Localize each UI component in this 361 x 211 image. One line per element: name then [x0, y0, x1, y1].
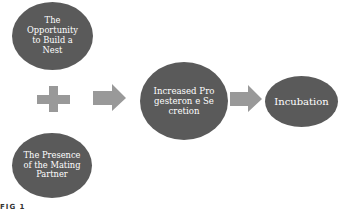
figure-caption-fragment: FIG 1: [0, 203, 25, 211]
node-label: Increased Progesteron e Secretion: [152, 86, 216, 117]
node-label: The Opportunity to Build a Nest: [22, 16, 83, 56]
arrow-right-icon: [230, 85, 263, 113]
node-nest-opportunity: The Opportunity to Build a Nest: [12, 2, 93, 70]
arrow-right-icon: [93, 84, 127, 112]
node-label: Incubation: [274, 96, 328, 108]
node-label: The Presence of the Mating Partner: [20, 151, 84, 181]
node-mating-partner: The Presence of the Mating Partner: [12, 133, 92, 198]
node-progesterone-secretion: Increased Progesteron e Secretion: [140, 62, 228, 140]
node-incubation: Incubation: [265, 76, 338, 127]
plus-icon: [37, 86, 70, 112]
